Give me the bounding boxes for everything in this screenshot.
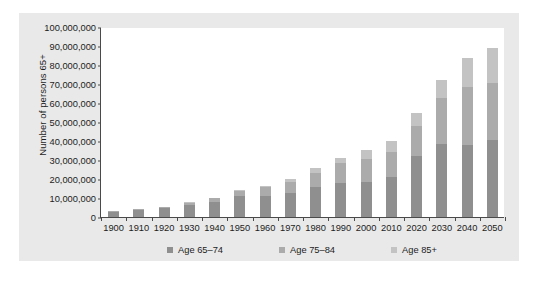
chart-figure: Number of persons 65+ 010,000,00020,000,… bbox=[19, 13, 519, 261]
bar bbox=[159, 207, 170, 217]
bar-segment bbox=[285, 182, 296, 194]
x-axis-tick-label: 2030 bbox=[432, 223, 453, 233]
bar-segment bbox=[184, 205, 195, 217]
x-axis-tick-label: 1910 bbox=[129, 223, 150, 233]
x-axis-tick-mark bbox=[227, 217, 228, 221]
bar-group bbox=[101, 28, 504, 217]
y-axis-tick-label: 90,000,000 bbox=[22, 42, 101, 52]
bar-segment bbox=[487, 48, 498, 83]
legend-label: Age 85+ bbox=[402, 245, 437, 255]
legend-label: Age 75–84 bbox=[290, 245, 335, 255]
bar-segment bbox=[234, 196, 245, 217]
x-axis-tick-mark bbox=[177, 217, 178, 221]
x-axis-tick-label: 1940 bbox=[204, 223, 225, 233]
bar bbox=[462, 58, 473, 217]
bar-segment bbox=[386, 141, 397, 152]
x-axis-tick-mark bbox=[126, 217, 127, 221]
x-axis-tick-mark bbox=[480, 217, 481, 221]
x-axis-tick-label: 2020 bbox=[406, 223, 427, 233]
bar-segment bbox=[487, 140, 498, 217]
bar-segment bbox=[310, 187, 321, 217]
bar bbox=[411, 113, 422, 217]
bar-segment bbox=[335, 183, 346, 217]
bar-segment bbox=[386, 152, 397, 177]
x-axis-tick-mark bbox=[328, 217, 329, 221]
bar-segment bbox=[361, 159, 372, 183]
plot-area: 010,000,00020,000,00030,000,00040,000,00… bbox=[100, 28, 504, 218]
y-axis-tick-label: 60,000,000 bbox=[22, 99, 101, 109]
legend-label: Age 65–74 bbox=[178, 245, 223, 255]
y-axis-tick-label: 80,000,000 bbox=[22, 61, 101, 71]
bar-segment bbox=[133, 210, 144, 217]
bar-segment bbox=[462, 87, 473, 145]
x-axis-tick-mark bbox=[354, 217, 355, 221]
x-axis-tick-label: 1960 bbox=[255, 223, 276, 233]
y-axis-tick-label: 10,000,000 bbox=[22, 194, 101, 204]
bar bbox=[310, 168, 321, 217]
bar-segment bbox=[462, 145, 473, 217]
x-axis-tick-label: 2050 bbox=[482, 223, 503, 233]
bar-segment bbox=[386, 177, 397, 217]
bar-segment bbox=[487, 83, 498, 140]
x-axis-tick-mark bbox=[505, 217, 506, 221]
x-axis-tick-label: 1900 bbox=[103, 223, 124, 233]
x-axis-tick-label: 1920 bbox=[154, 223, 175, 233]
x-axis-tick-label: 1970 bbox=[280, 223, 301, 233]
bar-segment bbox=[335, 163, 346, 182]
x-axis-tick-mark bbox=[429, 217, 430, 221]
bar-segment bbox=[436, 144, 447, 217]
y-axis-tick-label: 100,000,000 bbox=[22, 23, 101, 33]
legend-swatch-icon bbox=[167, 247, 173, 253]
x-axis-tick-label: 1950 bbox=[230, 223, 251, 233]
bar bbox=[436, 80, 447, 217]
bar bbox=[285, 179, 296, 217]
bar bbox=[386, 141, 397, 217]
x-axis-tick-label: 2010 bbox=[381, 223, 402, 233]
bar-segment bbox=[411, 156, 422, 217]
y-axis-tick-label: 40,000,000 bbox=[22, 137, 101, 147]
x-axis-tick-mark bbox=[101, 217, 102, 221]
y-axis-tick-label: 20,000,000 bbox=[22, 175, 101, 185]
x-axis-tick-label: 1930 bbox=[179, 223, 200, 233]
x-axis-tick-label: 2000 bbox=[356, 223, 377, 233]
legend-item: Age 65–74 bbox=[167, 245, 223, 255]
bar-segment bbox=[209, 202, 220, 217]
x-axis-tick-mark bbox=[379, 217, 380, 221]
bar-segment bbox=[436, 80, 447, 97]
y-axis-tick-label: 0 bbox=[22, 213, 101, 223]
bar bbox=[361, 150, 372, 217]
figure-caption bbox=[19, 267, 519, 279]
bar bbox=[335, 158, 346, 217]
y-axis-tick-label: 70,000,000 bbox=[22, 80, 101, 90]
bar-segment bbox=[310, 173, 321, 188]
y-axis-tick-label: 50,000,000 bbox=[22, 118, 101, 128]
bar-segment bbox=[436, 98, 447, 145]
x-axis-tick-label: 1980 bbox=[305, 223, 326, 233]
bar bbox=[184, 202, 195, 217]
legend-item: Age 75–84 bbox=[279, 245, 335, 255]
bar bbox=[234, 190, 245, 217]
bar-segment bbox=[260, 196, 271, 217]
bar-segment bbox=[361, 182, 372, 217]
bar bbox=[260, 186, 271, 217]
bar-segment bbox=[411, 126, 422, 156]
legend-swatch-icon bbox=[391, 247, 397, 253]
x-axis-tick-mark bbox=[278, 217, 279, 221]
x-axis-tick-label: 2040 bbox=[457, 223, 478, 233]
x-axis-tick-mark bbox=[404, 217, 405, 221]
legend-swatch-icon bbox=[279, 247, 285, 253]
chart-legend: Age 65–74Age 75–84Age 85+ bbox=[100, 243, 504, 257]
x-axis-tick-mark bbox=[303, 217, 304, 221]
x-axis-tick-mark bbox=[202, 217, 203, 221]
legend-item: Age 85+ bbox=[391, 245, 437, 255]
bar-segment bbox=[260, 187, 271, 196]
bar bbox=[487, 48, 498, 217]
x-axis-tick-mark bbox=[253, 217, 254, 221]
bar-segment bbox=[462, 58, 473, 87]
bar bbox=[209, 198, 220, 217]
x-axis-tick-label: 1990 bbox=[331, 223, 352, 233]
y-axis-tick-label: 30,000,000 bbox=[22, 156, 101, 166]
bar bbox=[133, 209, 144, 217]
bar-segment bbox=[159, 208, 170, 217]
x-axis-tick-mark bbox=[152, 217, 153, 221]
